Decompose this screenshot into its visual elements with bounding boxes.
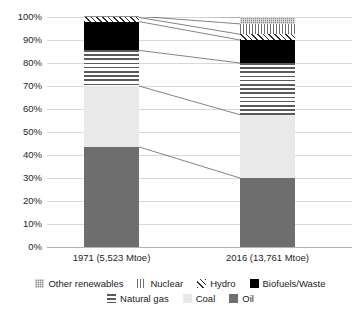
gridline-0 (47, 247, 352, 248)
bar-segment-other-renewables[interactable] (84, 16, 139, 17)
bar-segment-biofuels-waste[interactable] (84, 22, 139, 51)
legend-swatch-icon (250, 279, 259, 288)
bar-segment-coal[interactable] (240, 115, 295, 178)
legend-swatch-icon (35, 279, 44, 288)
legend-label: Hydro (210, 279, 235, 289)
y-tick-label: 40% (23, 150, 42, 160)
connector-hydro (139, 17, 240, 34)
legend-label: Other renewables (48, 279, 123, 289)
legend-item-oil[interactable]: Oil (229, 294, 254, 304)
bar-segment-hydro[interactable] (240, 34, 295, 40)
bar-segment-biofuels-waste[interactable] (240, 40, 295, 63)
legend-item-natural-gas[interactable]: Natural gas (107, 294, 169, 304)
y-tick-label: 50% (23, 127, 42, 137)
bar-segment-nuclear[interactable] (240, 24, 295, 34)
bar-segment-nuclear[interactable] (84, 16, 139, 17)
connector-natural-gas (139, 50, 240, 63)
legend-swatch-icon (197, 279, 206, 288)
legend-swatch-icon (183, 294, 192, 303)
x-tick-label: 2016 (13,761 Mtoe) (226, 253, 309, 263)
bar-segment-oil[interactable] (84, 147, 139, 247)
y-axis: 0%10%20%30%40%50%60%70%80%90%100% (0, 0, 47, 264)
legend-item-biofuels-waste[interactable]: Biofuels/Waste (250, 279, 326, 289)
legend-label: Biofuels/Waste (263, 279, 326, 289)
legend-swatch-icon (137, 279, 146, 288)
legend-row: Other renewablesNuclearHydroBiofuels/Was… (0, 276, 361, 291)
legend-label: Nuclear (150, 279, 183, 289)
connector-nuclear (139, 17, 240, 24)
legend-label: Coal (196, 294, 216, 304)
bar-1971[interactable] (84, 17, 139, 247)
bar-segment-natural-gas[interactable] (84, 50, 139, 86)
y-tick-label: 20% (23, 196, 42, 206)
connector-biofuels-waste (139, 22, 240, 40)
bar-segment-oil[interactable] (240, 178, 295, 247)
y-tick-label: 60% (23, 104, 42, 114)
bar-segment-natural-gas[interactable] (240, 63, 295, 115)
connector-oil (139, 147, 240, 178)
y-tick-label: 80% (23, 58, 42, 68)
legend-swatch-icon (107, 294, 116, 303)
legend-row: Natural gasCoalOil (0, 291, 361, 306)
legend-item-other-renewables[interactable]: Other renewables (35, 279, 123, 289)
y-tick-label: 70% (23, 81, 42, 91)
stacked-bar-chart: 0%10%20%30%40%50%60%70%80%90%100% 1971 (… (0, 0, 361, 315)
x-axis: 1971 (5,523 Mtoe)2016 (13,761 Mtoe) (47, 249, 352, 271)
bar-segment-hydro[interactable] (84, 17, 139, 21)
legend-swatch-icon (229, 294, 238, 303)
chart-legend: Other renewablesNuclearHydroBiofuels/Was… (0, 276, 361, 306)
connector-coal (139, 86, 240, 115)
y-tick-label: 100% (18, 12, 42, 22)
legend-label: Natural gas (120, 294, 169, 304)
legend-item-coal[interactable]: Coal (183, 294, 216, 304)
y-tick-label: 30% (23, 173, 42, 183)
legend-item-nuclear[interactable]: Nuclear (137, 279, 183, 289)
bar-segment-other-renewables[interactable] (240, 17, 295, 24)
x-tick-label: 1971 (5,523 Mtoe) (73, 253, 151, 263)
plot-area (47, 17, 352, 247)
bar-2016[interactable] (240, 17, 295, 247)
bar-segment-coal[interactable] (84, 86, 139, 147)
legend-label: Oil (242, 294, 254, 304)
y-tick-label: 10% (23, 219, 42, 229)
y-tick-label: 0% (28, 242, 42, 252)
y-tick-label: 90% (23, 35, 42, 45)
legend-item-hydro[interactable]: Hydro (197, 279, 235, 289)
